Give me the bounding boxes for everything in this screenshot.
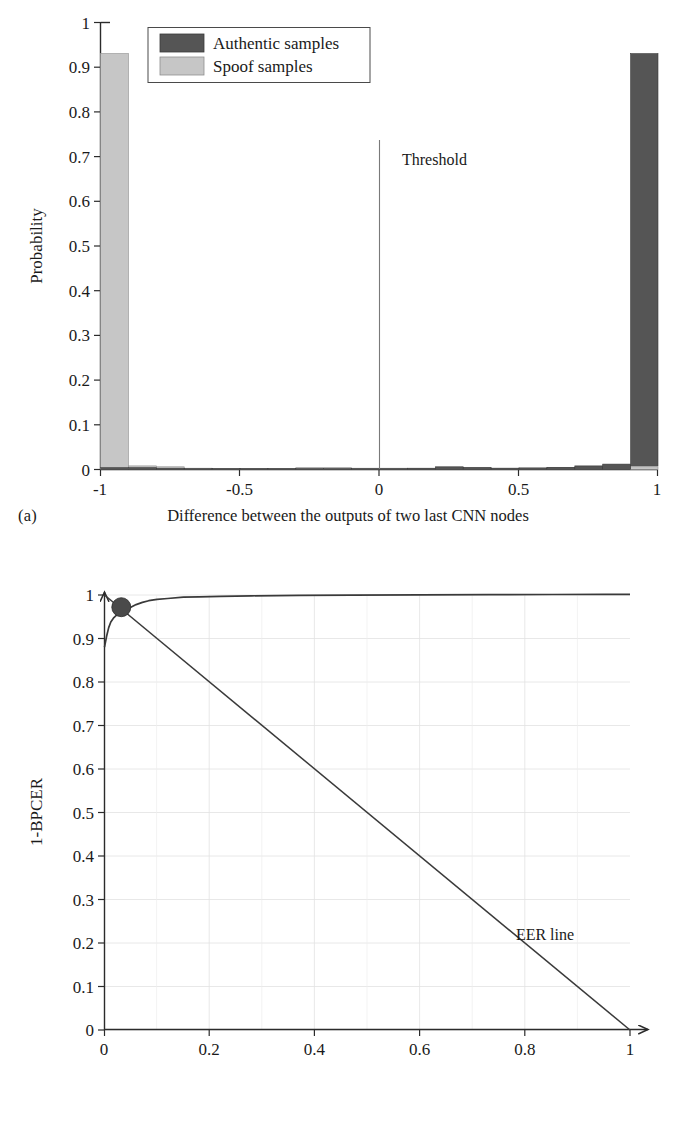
legend-entry-spoof: Spoof samples [160, 57, 313, 76]
y-tick-label-b: 0.9 [73, 630, 94, 649]
y-tick-label-b: 0.7 [73, 717, 95, 736]
bar-authentic [463, 467, 491, 469]
x-tick-b: 0.8 [514, 1030, 535, 1059]
figure-container: 0 0.1 0.2 0.3 0.4 0.5 0.6 0.7 0.8 [0, 0, 674, 1130]
y-tick-b: 1 [86, 586, 105, 605]
bar-authentic [212, 469, 240, 470]
x-tick-label-a: 0 [375, 480, 384, 499]
x-tick-b: 0.4 [304, 1030, 326, 1059]
y-tick-a: 0.9 [69, 58, 100, 77]
bar-authentic [407, 468, 435, 469]
y-tick-label-b: 0.1 [73, 978, 94, 997]
y-tick-label-a: 1 [82, 14, 91, 33]
bar-authentic [324, 469, 352, 470]
y-tick-b: 0.7 [73, 717, 104, 736]
threshold-label: Threshold [402, 151, 467, 168]
y-tick-label-a: 0.6 [69, 192, 90, 211]
bar-authentic [603, 464, 631, 469]
histogram-chart-a: 0 0.1 0.2 0.3 0.4 0.5 0.6 0.7 0.8 [0, 0, 674, 540]
y-tick-label-a: 0.7 [69, 148, 91, 167]
bar-authentic [491, 468, 519, 469]
legend-swatch-spoof [160, 57, 204, 75]
bar-authentic [380, 469, 408, 470]
axis-group-b [104, 592, 648, 1030]
bar-authentic [547, 467, 575, 469]
y-tick-a: 0.6 [69, 192, 100, 211]
bar-authentic [575, 466, 603, 470]
x-tick-b: 0.6 [409, 1030, 430, 1059]
x-tick-label-a: 1 [653, 480, 662, 499]
y-tick-label-b: 0.6 [73, 760, 94, 779]
y-tick-b: 0.9 [73, 630, 104, 649]
y-tick-label-b: 0.2 [73, 934, 94, 953]
y-tick-label-a: 0.5 [69, 237, 90, 256]
y-ticks-b: 0 0.1 0.2 0.3 0.4 0.5 0.6 0.7 0.8 [73, 586, 104, 1040]
y-tick-label-b: 1 [86, 586, 95, 605]
y-tick-a: 0.5 [69, 237, 100, 256]
x-tick-b: 0 [100, 1030, 109, 1059]
bar-authentic [128, 468, 156, 470]
y-tick-b: 0.6 [73, 760, 104, 779]
y-tick-a: 0.2 [69, 371, 100, 390]
x-ticks-a: -1 -0.5 0 0.5 1 [93, 470, 661, 500]
x-tick-a: 1 [653, 470, 662, 500]
y-tick-label-a: 0.3 [69, 326, 90, 345]
eer-line-label: EER line [516, 926, 574, 943]
y-tick-label-b: 0.3 [73, 891, 94, 910]
y-tick-b: 0.1 [73, 978, 104, 997]
chart-panel-a: 0 0.1 0.2 0.3 0.4 0.5 0.6 0.7 0.8 [0, 0, 674, 540]
x-tick-label-b: 0 [100, 1040, 109, 1059]
y-tick-label-a: 0 [82, 461, 91, 480]
bar-authentic [184, 469, 212, 470]
legend-swatch-authentic [160, 34, 204, 52]
bar-spoof [631, 467, 658, 470]
y-tick-label-a: 0.9 [69, 58, 90, 77]
x-tick-label-b: 0.6 [409, 1040, 430, 1059]
legend-label-authentic: Authentic samples [213, 34, 339, 53]
y-tick-label-a: 0.1 [69, 416, 90, 435]
bar-authentic [240, 469, 268, 470]
y-tick-a: 0.7 [69, 148, 100, 167]
x-tick-label-a: 0.5 [508, 480, 529, 499]
threshold-annotation-a: Threshold [380, 140, 467, 469]
y-tick-label-a: 0.2 [69, 371, 90, 390]
y-tick-label-b: 0.4 [73, 847, 95, 866]
y-axis-title-a: Probability [27, 208, 46, 284]
x-tick-label-b: 0.2 [199, 1040, 220, 1059]
y-tick-label-b: 0 [86, 1021, 95, 1040]
x-tick-a: -1 [93, 470, 107, 500]
y-tick-a: 0 [82, 461, 101, 480]
x-tick-label-b: 0.8 [514, 1040, 535, 1059]
bar-spoof [101, 54, 129, 470]
bar-authentic [631, 54, 658, 466]
y-tick-label-b: 0.8 [73, 673, 94, 692]
bar-authentic [156, 468, 184, 469]
roc-chart-b: 0 0.1 0.2 0.3 0.4 0.5 0.6 0.7 0.8 [0, 540, 674, 1130]
x-tick-label-b: 1 [626, 1040, 635, 1059]
x-tick-b: 0.2 [199, 1030, 220, 1059]
bar-authentic [352, 469, 380, 470]
y-tick-label-b: 0.5 [73, 804, 94, 823]
bar-authentic [435, 467, 463, 470]
x-tick-a: 0.5 [508, 470, 529, 500]
x-tick-a: 0 [375, 470, 384, 500]
y-tick-a: 0.8 [69, 103, 100, 122]
y-tick-a: 0.1 [69, 416, 100, 435]
y-tick-label-a: 0.8 [69, 103, 90, 122]
caption-text-a: Difference between the outputs of two la… [0, 506, 674, 526]
eer-point-marker [112, 598, 131, 617]
y-tick-b: 0 [86, 1021, 105, 1040]
y-tick-b: 0.8 [73, 673, 104, 692]
y-ticks-a: 0 0.1 0.2 0.3 0.4 0.5 0.6 0.7 0.8 [69, 14, 100, 480]
legend-a: Authentic samples Spoof samples [148, 28, 370, 83]
x-tick-a: -0.5 [226, 470, 253, 500]
y-tick-b: 0.4 [73, 847, 104, 866]
x-ticks-b: 0 0.2 0.4 0.6 0.8 1 [100, 1030, 635, 1059]
y-tick-a: 1 [82, 14, 101, 33]
legend-label-spoof: Spoof samples [213, 57, 313, 76]
x-tick-label-a: -0.5 [226, 480, 253, 499]
bar-authentic [296, 469, 324, 470]
y-axis-title-b: 1-BPCER [27, 777, 46, 846]
y-tick-b: 0.5 [73, 804, 104, 823]
y-tick-a: 0.4 [69, 282, 100, 301]
